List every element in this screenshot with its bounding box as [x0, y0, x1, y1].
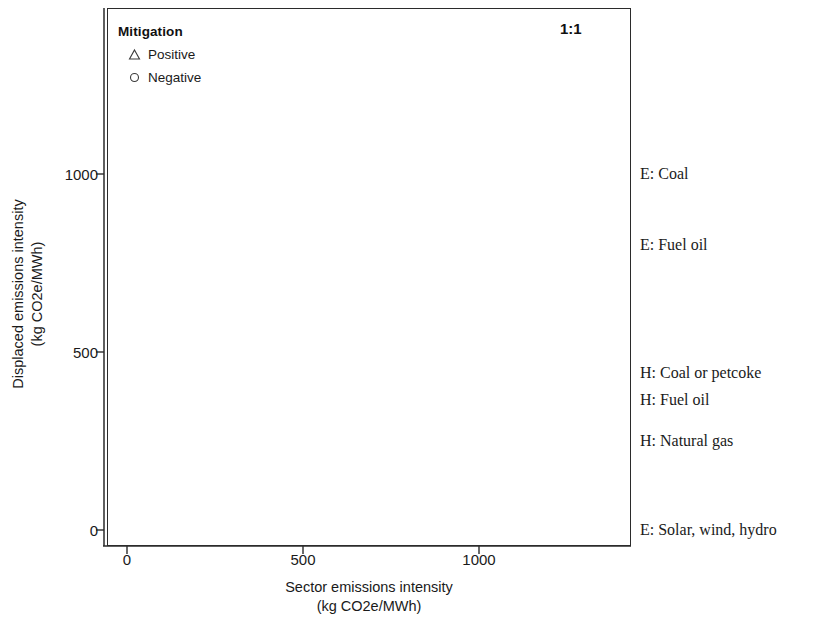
figure-root: Mitigation Positive Negative 1:1 0500100… [0, 0, 825, 626]
y-axis-title: Displaced emissions intensity (kg CO2e/M… [9, 174, 47, 414]
y-tick-label: 500 [73, 344, 98, 361]
legend-item-negative: Negative [118, 70, 288, 85]
reference-line-label: H: Natural gas [640, 432, 733, 450]
reference-line-label: E: Solar, wind, hydro [640, 521, 777, 539]
x-tick-label: 0 [123, 551, 131, 568]
y-tick-label: 1000 [65, 166, 98, 183]
x-axis-title: Sector emissions intensity (kg CO2e/MWh) [107, 578, 631, 616]
x-tick-label: 500 [290, 551, 315, 568]
reference-line-label: E: Coal [640, 165, 688, 183]
y-axis-title-line1: Displaced emissions intensity [9, 174, 28, 414]
legend: Mitigation Positive Negative [118, 24, 288, 85]
reference-line-label: H: Fuel oil [640, 391, 709, 409]
legend-title: Mitigation [118, 24, 288, 39]
x-tick-label: 1000 [462, 551, 495, 568]
y-axis-title-line2: (kg CO2e/MWh) [28, 174, 47, 414]
reference-line-label: E: Fuel oil [640, 236, 708, 254]
y-tick-label: 0 [90, 522, 98, 539]
identity-line-label: 1:1 [560, 20, 582, 37]
x-axis-title-line1: Sector emissions intensity [107, 578, 631, 597]
x-axis-title-line2: (kg CO2e/MWh) [107, 597, 631, 616]
plot-area-frame [107, 8, 631, 546]
legend-label-positive: Positive [148, 47, 195, 62]
circle-icon [124, 71, 144, 84]
legend-item-positive: Positive [118, 47, 288, 62]
reference-line-label: H: Coal or petcoke [640, 364, 761, 382]
triangle-up-icon [124, 48, 144, 61]
legend-label-negative: Negative [148, 70, 201, 85]
